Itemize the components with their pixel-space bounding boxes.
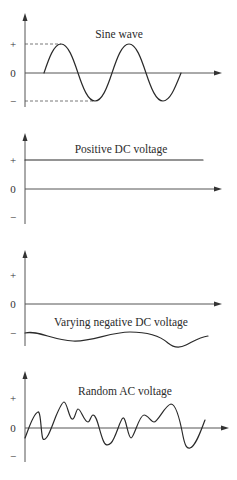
panel-title: Sine wave — [95, 28, 143, 40]
tick-minus: − — [10, 211, 16, 223]
y-axis-arrow-icon — [23, 371, 28, 379]
tick-zero: 0 — [10, 183, 16, 195]
tick-plus: + — [10, 269, 16, 281]
tick-zero: 0 — [10, 298, 16, 310]
y-axis-arrow-icon — [23, 13, 28, 21]
tick-plus: + — [10, 154, 16, 166]
tick-minus: − — [10, 327, 16, 339]
panel-title: Positive DC voltage — [75, 143, 168, 156]
y-axis-arrow-icon — [23, 250, 28, 258]
panel-random-ac: + 0 − Random AC voltage — [10, 371, 229, 462]
x-axis-arrow-icon — [214, 71, 222, 76]
tick-plus: + — [10, 38, 16, 50]
panel-title: Random AC voltage — [78, 385, 172, 398]
x-axis-arrow-icon — [221, 426, 229, 431]
x-axis-arrow-icon — [214, 187, 222, 192]
panel-title: Varying negative DC voltage — [54, 316, 188, 329]
random-ac-curve — [25, 402, 205, 448]
voltage-waveforms-figure: + 0 − Sine wave + 0 − Positive DC voltag… — [0, 0, 237, 480]
tick-minus: − — [10, 450, 16, 462]
tick-plus: + — [10, 392, 16, 404]
panel-positive-dc: + 0 − Positive DC voltage — [10, 133, 222, 224]
tick-zero: 0 — [10, 422, 16, 434]
y-axis-arrow-icon — [23, 133, 28, 141]
panel-varying-negative-dc: + 0 − Varying negative DC voltage — [10, 250, 222, 347]
panel-sine-wave: + 0 − Sine wave — [10, 13, 222, 107]
varying-negative-dc-curve — [25, 332, 208, 347]
tick-zero: 0 — [10, 67, 16, 79]
tick-minus: − — [10, 95, 16, 107]
x-axis-arrow-icon — [214, 302, 222, 307]
